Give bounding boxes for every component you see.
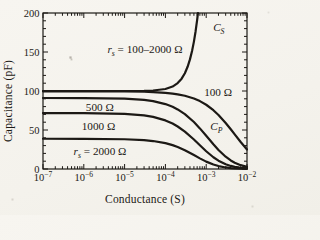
y-tick-label: 200: [24, 8, 40, 19]
y-axis-title: Capacitance (pF): [2, 60, 14, 142]
y-tick-label: 0: [34, 164, 39, 175]
scanned-figure-page: 10−710−610−510−410−310−2050100150200rs =…: [0, 0, 280, 215]
y-tick-label: 100: [24, 86, 40, 97]
rs100-label: 100 Ω: [204, 86, 232, 98]
rs1000-label: 1000 Ω: [82, 120, 116, 132]
rs500-label: 500 Ω: [86, 101, 114, 113]
capacitance-vs-conductance-chart: 10−710−610−510−410−310−2050100150200rs =…: [0, 0, 280, 215]
cs-label: CS: [213, 21, 224, 36]
x-tick-label: 10−4: [156, 170, 175, 184]
scan-artifacts: [0, 0, 1, 1]
x-tick-label: 10−2: [238, 170, 257, 184]
y-tick-label: 50: [29, 125, 40, 136]
x-tick-label: 10−6: [75, 170, 94, 184]
x-tick-label: 10−3: [197, 170, 216, 184]
y-tick-label: 150: [24, 47, 40, 58]
x-axis-title: Conductance (S): [43, 193, 247, 205]
cp-label: CP: [210, 120, 222, 135]
rs-range-label: rs = 100–2000 Ω: [107, 43, 182, 58]
y-axis-title-box: Capacitance (pF): [0, 0, 16, 202]
x-tick-label: 10−5: [115, 170, 134, 184]
rs2000-label: rs = 2000 Ω: [74, 145, 127, 160]
